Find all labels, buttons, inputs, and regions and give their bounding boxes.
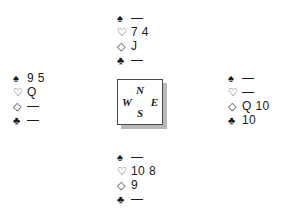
south-clubs-cards: — xyxy=(128,192,143,206)
club-icon: ♣ xyxy=(117,192,128,206)
east-clubs-cards: 10 xyxy=(239,113,256,127)
west-clubs-cards: — xyxy=(24,113,39,127)
compass-label-north: N xyxy=(118,85,162,96)
bridge-deal-diagram: ♠ — ♡ 7 4 ◇ J ♣ — ♠ 9 5 ♡ Q ◇ — ♣ xyxy=(0,0,283,210)
north-clubs-cards: — xyxy=(128,53,143,67)
spade-icon: ♠ xyxy=(228,71,239,85)
north-diamonds-row: ◇ J xyxy=(117,39,149,53)
north-hearts-row: ♡ 7 4 xyxy=(117,25,149,39)
diamond-icon: ◇ xyxy=(117,39,128,53)
east-spades-row: ♠ — xyxy=(228,71,270,85)
compass-label-west: W xyxy=(122,97,132,108)
north-clubs-row: ♣ — xyxy=(117,53,149,67)
south-spades-row: ♠ — xyxy=(117,150,156,164)
club-icon: ♣ xyxy=(228,113,239,127)
heart-icon: ♡ xyxy=(117,25,128,39)
west-hearts-row: ♡ Q xyxy=(13,85,45,99)
compass-box: N W E S xyxy=(117,79,163,125)
west-hearts-cards: Q xyxy=(24,85,37,99)
east-clubs-row: ♣ 10 xyxy=(228,113,270,127)
diamond-icon: ◇ xyxy=(117,178,128,192)
heart-icon: ♡ xyxy=(13,85,24,99)
compass-label-east: E xyxy=(151,97,158,108)
hand-south: ♠ — ♡ 10 8 ◇ 9 ♣ — xyxy=(117,150,156,206)
south-diamonds-cards: 9 xyxy=(128,178,138,192)
club-icon: ♣ xyxy=(117,53,128,67)
south-clubs-row: ♣ — xyxy=(117,192,156,206)
south-spades-cards: — xyxy=(128,150,143,164)
east-spades-cards: — xyxy=(239,71,254,85)
east-hearts-row: ♡ — xyxy=(228,85,270,99)
spade-icon: ♠ xyxy=(117,11,128,25)
hand-north: ♠ — ♡ 7 4 ◇ J ♣ — xyxy=(117,11,149,67)
east-diamonds-cards: Q 10 xyxy=(239,99,270,113)
north-spades-row: ♠ — xyxy=(117,11,149,25)
hand-east: ♠ — ♡ — ◇ Q 10 ♣ 10 xyxy=(228,71,270,127)
north-spades-cards: — xyxy=(128,11,143,25)
west-diamonds-cards: — xyxy=(24,99,39,113)
heart-icon: ♡ xyxy=(228,85,239,99)
compass-label-south: S xyxy=(118,108,162,119)
diamond-icon: ◇ xyxy=(228,99,239,113)
east-diamonds-row: ◇ Q 10 xyxy=(228,99,270,113)
west-spades-row: ♠ 9 5 xyxy=(13,71,45,85)
hand-west: ♠ 9 5 ♡ Q ◇ — ♣ — xyxy=(13,71,45,127)
spade-icon: ♠ xyxy=(13,71,24,85)
heart-icon: ♡ xyxy=(117,164,128,178)
west-diamonds-row: ◇ — xyxy=(13,99,45,113)
south-diamonds-row: ◇ 9 xyxy=(117,178,156,192)
diamond-icon: ◇ xyxy=(13,99,24,113)
compass-box-frame: N W E S xyxy=(117,79,163,125)
north-diamonds-cards: J xyxy=(128,39,137,53)
west-spades-cards: 9 5 xyxy=(24,71,45,85)
west-clubs-row: ♣ — xyxy=(13,113,45,127)
club-icon: ♣ xyxy=(13,113,24,127)
east-hearts-cards: — xyxy=(239,85,254,99)
spade-icon: ♠ xyxy=(117,150,128,164)
north-hearts-cards: 7 4 xyxy=(128,25,149,39)
south-hearts-row: ♡ 10 8 xyxy=(117,164,156,178)
south-hearts-cards: 10 8 xyxy=(128,164,156,178)
